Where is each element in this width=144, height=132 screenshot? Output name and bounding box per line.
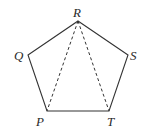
vertex-label-s: S [130, 48, 137, 63]
pentagon-outline [28, 21, 128, 111]
pentagon-diagram: R S T P Q [0, 0, 144, 132]
vertex-label-q: Q [14, 48, 24, 63]
dashed-segment-rt [78, 21, 109, 111]
vertex-label-r: R [72, 5, 81, 20]
diagram-svg: R S T P Q [0, 0, 144, 132]
vertex-label-t: T [107, 114, 115, 129]
dashed-segment-rp [47, 21, 78, 111]
vertex-label-p: P [35, 114, 44, 129]
